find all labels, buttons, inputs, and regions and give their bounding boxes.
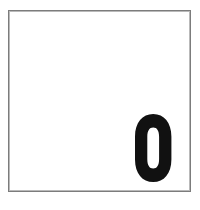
digit-zero-path [135,114,171,182]
page-canvas: 0 [0,0,200,210]
image-border: 0 [8,10,191,192]
digit-zero: 0 [133,109,173,187]
digit-zero-shape [133,109,173,187]
